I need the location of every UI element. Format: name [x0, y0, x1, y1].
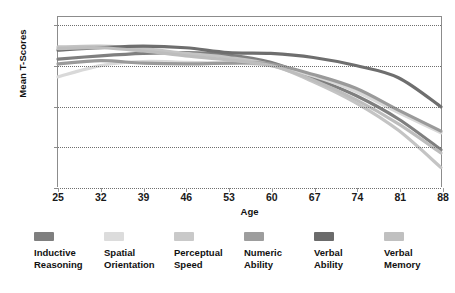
- x-tick-label: 25: [38, 191, 78, 203]
- line-chart-figure: Mean T-Scores 35404550552532394653606774…: [0, 0, 455, 293]
- plot-inner: [58, 17, 441, 187]
- x-tick-label: 88: [423, 191, 455, 203]
- y-tick-mark: [54, 66, 58, 67]
- y-axis-title: Mean T-Scores: [17, 4, 28, 124]
- chart-area: Mean T-Scores 35404550552532394653606774…: [0, 0, 455, 228]
- legend-swatch: [104, 232, 124, 241]
- y-tick-mark: [54, 147, 58, 148]
- plot-frame: 354045505525323946536067748188: [57, 16, 442, 187]
- legend-swatch: [244, 232, 264, 241]
- x-tick-label: 67: [295, 191, 335, 203]
- gridline-y: [58, 188, 441, 189]
- legend-label: Verbal Memory: [384, 247, 455, 270]
- legend-item[interactable]: Verbal Memory: [384, 232, 455, 270]
- x-tick-label: 46: [166, 191, 206, 203]
- gridline-y: [58, 25, 441, 26]
- y-tick-mark: [54, 25, 58, 26]
- x-tick-label: 32: [81, 191, 121, 203]
- x-axis-title: Age: [57, 206, 442, 217]
- x-tick-label: 60: [252, 191, 292, 203]
- legend-swatch: [34, 232, 54, 241]
- chart-legend: Inductive ReasoningSpatial OrientationPe…: [0, 232, 455, 290]
- legend-swatch: [314, 232, 334, 241]
- y-tick-mark: [54, 107, 58, 108]
- x-tick-label: 81: [380, 191, 420, 203]
- x-tick-label: 74: [337, 191, 377, 203]
- x-tick-label: 39: [124, 191, 164, 203]
- x-tick-label: 53: [209, 191, 249, 203]
- legend-swatch: [174, 232, 194, 241]
- gridline-y: [58, 147, 441, 148]
- series-lines: [58, 17, 441, 187]
- gridline-y: [58, 107, 441, 108]
- gridline-y: [58, 66, 441, 67]
- legend-swatch: [384, 232, 404, 241]
